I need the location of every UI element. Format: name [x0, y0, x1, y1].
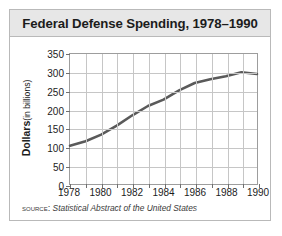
- gridline-vertical: [133, 54, 134, 184]
- plot-region: Dollars(in billions) 0501001502002503003…: [10, 37, 270, 221]
- y-tick-label: 200: [47, 105, 64, 116]
- y-tick-mark: [66, 129, 70, 130]
- y-tick-mark: [66, 73, 70, 74]
- gridline-horizontal: [70, 129, 257, 130]
- source-text: Statistical Abstract of the United State…: [53, 203, 197, 213]
- chart-title-band: Federal Defense Spending, 1978–1990: [10, 10, 270, 37]
- y-tick-mark: [66, 92, 70, 93]
- x-tick-label: 1978: [58, 187, 80, 198]
- figure-card: Federal Defense Spending, 1978–1990 Doll…: [9, 9, 271, 221]
- gridline-vertical: [86, 54, 87, 184]
- gridline-horizontal: [70, 92, 257, 93]
- page-title: Federal Defense Spending, 1978–1990: [22, 16, 257, 31]
- x-axis-tick-labels: 1978198019821984198619881990: [69, 187, 258, 201]
- plot-axes: [69, 53, 258, 185]
- gridline-vertical: [117, 54, 118, 184]
- gridline-horizontal: [70, 148, 257, 149]
- y-tick-label: 50: [53, 162, 64, 173]
- y-axis-title-main: Dollars: [20, 121, 32, 157]
- x-tick-label: 1990: [247, 187, 269, 198]
- gridline-horizontal: [70, 167, 257, 168]
- gridline-vertical: [165, 54, 166, 184]
- gridline-vertical: [228, 54, 229, 184]
- x-tick-label: 1982: [121, 187, 143, 198]
- gridline-vertical: [243, 54, 244, 184]
- gridline-vertical: [149, 54, 150, 184]
- y-axis-tick-labels: 050100150200250300350: [34, 53, 64, 185]
- y-tick-mark: [66, 167, 70, 168]
- x-tick-label: 1986: [184, 187, 206, 198]
- y-axis-title-sub: (in billions): [22, 80, 32, 121]
- gridline-vertical: [196, 54, 197, 184]
- x-tick-label: 1980: [89, 187, 111, 198]
- y-axis-title: Dollars(in billions): [18, 59, 34, 177]
- y-tick-label: 350: [47, 49, 64, 60]
- source-label: SOURCE:: [22, 203, 50, 213]
- spending-line: [70, 72, 257, 146]
- gridline-vertical: [212, 54, 213, 184]
- y-tick-label: 100: [47, 143, 64, 154]
- x-tick-label: 1988: [215, 187, 237, 198]
- gridline-horizontal: [70, 73, 257, 74]
- gridline-vertical: [180, 54, 181, 184]
- x-tick-label: 1984: [152, 187, 174, 198]
- y-tick-mark: [66, 54, 70, 55]
- y-tick-label: 250: [47, 86, 64, 97]
- gridline-vertical: [102, 54, 103, 184]
- y-tick-mark: [66, 111, 70, 112]
- y-tick-mark: [66, 148, 70, 149]
- source-note: SOURCE: Statistical Abstract of the Unit…: [22, 203, 197, 213]
- y-tick-label: 300: [47, 67, 64, 78]
- gridline-horizontal: [70, 111, 257, 112]
- y-tick-label: 150: [47, 124, 64, 135]
